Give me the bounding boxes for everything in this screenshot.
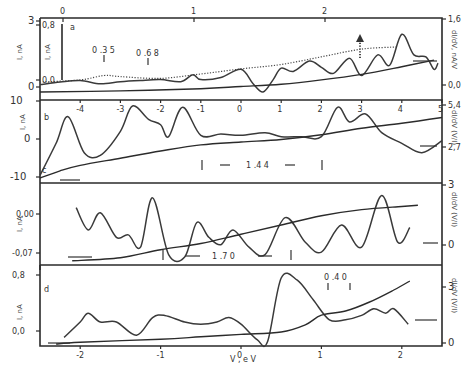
y-tick-d-00: 0,0	[12, 327, 25, 336]
y-right-label-c: dI/dV (V/I)	[450, 192, 458, 227]
x-bottom-d-tick-label: 1	[317, 351, 322, 360]
y-label-b: I, nA	[19, 114, 27, 130]
series-b-i-v-	[40, 118, 442, 179]
x-bottom-a-tick-label: 3	[358, 105, 363, 114]
x-bottom-a-tick-label: 4	[398, 105, 403, 114]
y-tick-c-m007: -0,07	[12, 249, 33, 258]
x-bottom-a-tick-label: 0	[237, 105, 242, 114]
annotation-d: 0 .4 0	[48, 273, 437, 343]
series-d-i-v-	[56, 281, 410, 344]
y-right-tick-c-0: 0	[448, 239, 454, 250]
x-bottom-a-tick-label: 1	[277, 105, 282, 114]
x-bottom-a-tick-label: 5	[438, 105, 443, 114]
arrow-up-icon	[356, 34, 364, 42]
annotation-1-44: 1 .4 4	[246, 161, 269, 170]
series-a-di-dv	[40, 34, 438, 92]
y-right-tick-d-0: 0	[448, 337, 454, 348]
panel-label-a: a	[70, 23, 75, 32]
y-tick-a-0: 0	[28, 81, 34, 92]
annotation-c: 1 .7 0	[68, 243, 438, 261]
data-series	[40, 34, 442, 346]
y-label-a-outer: I, nA	[16, 44, 24, 60]
x-axis-label: V , e V	[230, 355, 257, 364]
y-right-tick-b-54: 5,4	[448, 101, 461, 110]
x-bottom-d-tick-label: -2	[76, 351, 84, 360]
y-right-label-b: dI/dV (V/I)	[450, 110, 458, 145]
x-bottom-a-tick-label: -2	[157, 105, 165, 114]
y-tick-d-08: 0,8	[12, 271, 25, 280]
annotation-0-40: 0 .4 0	[324, 273, 347, 282]
series-c-di-dv	[76, 195, 410, 261]
y-right-label-d: dI/dV (V/I)	[450, 278, 458, 313]
y-tick-a-3: 3	[28, 15, 34, 26]
annotation-1-70: 1 .7 0	[212, 252, 235, 261]
y-right-tick-a-00: 0,0	[448, 81, 461, 90]
panel-label-d: d	[44, 285, 49, 294]
y-right-label-a: dI/dV, nA/V	[450, 30, 458, 69]
x-top-a-tick-label: 0	[60, 7, 65, 16]
series-d-di-dv	[64, 273, 408, 346]
x-bottom-a-tick-label: 2	[317, 105, 322, 114]
y-tick-b-0: 0	[24, 133, 30, 144]
y-label-c: I, nA	[16, 216, 24, 232]
y-tick-b-10: 10	[10, 95, 23, 106]
panel-a-frame	[40, 18, 442, 100]
annotation-0-68: 0 .6 8	[136, 49, 159, 58]
x-bottom-a-tick-label: -1	[197, 105, 205, 114]
annotation-b: 1 .4 4	[60, 146, 437, 180]
x-bottom-d-tick-label: -1	[157, 351, 165, 360]
x-top-a-tick-label: 2	[322, 7, 327, 16]
y-right-tick-a-16: 1,6	[448, 15, 461, 24]
y-label-a-inner: I, nA	[44, 44, 52, 60]
panel-label-b: b	[44, 113, 49, 122]
y-label-d: I, nA	[16, 304, 24, 320]
panel-label-c: c	[42, 166, 46, 175]
x-bottom-d-tick-label: 2	[398, 351, 403, 360]
series-c-i-v-	[72, 205, 418, 260]
x-top-a-tick-label: 1	[191, 7, 196, 16]
annotation-a: 0 .3 5 0 .6 8	[92, 34, 437, 65]
y-tick-b-m10: -10	[10, 171, 26, 182]
x-bottom-a-tick-label: -3	[116, 105, 124, 114]
stm-spectra-figure: -4-3-2-1012345012-2-1012300,80,01,60,010…	[0, 0, 475, 376]
y-tick-a-inner-08: 0,8	[42, 21, 55, 30]
x-bottom-a-tick-label: -4	[76, 105, 84, 114]
y-right-tick-c-3: 3	[448, 179, 454, 190]
annotation-0-35: 0 .3 5	[92, 46, 115, 55]
series-b-di-dv	[40, 106, 442, 176]
